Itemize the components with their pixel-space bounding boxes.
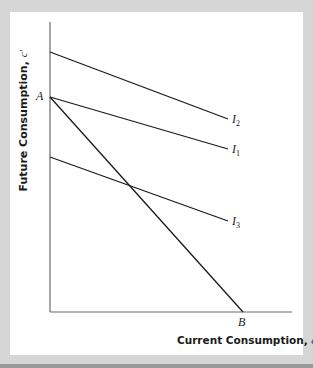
budget-line-ab [50, 97, 243, 312]
i2-label: I2 [232, 112, 240, 128]
point-b-label: B [238, 315, 245, 330]
indifference-curve-i1 [50, 97, 228, 149]
point-a-label: A [36, 89, 43, 104]
i3-label: I3 [232, 214, 240, 230]
y-axis-label: Future Consumption, c' [17, 62, 30, 192]
indifference-curve-i3 [50, 157, 228, 221]
indifference-curve-i2 [50, 52, 228, 119]
x-axis-label: Current Consumption, c [177, 334, 313, 346]
i1-label: I1 [232, 142, 240, 158]
diagram-canvas [0, 0, 313, 368]
